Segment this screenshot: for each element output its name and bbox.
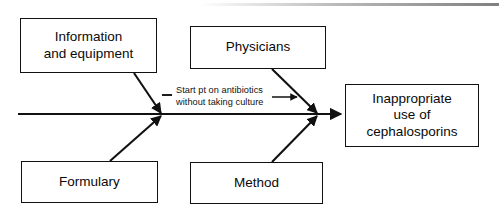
cause-box-physicians-label: Physicians [226, 39, 291, 55]
cause-box-formulary[interactable]: Formulary [21, 161, 158, 203]
effect-box[interactable]: Inappropriate use of cephalosporins [345, 84, 479, 147]
bone-method [272, 116, 317, 162]
bone-formulary [110, 116, 161, 161]
cause-box-formulary-label: Formulary [59, 174, 120, 190]
bone-physicians [272, 69, 317, 113]
cause-box-information-and-equipment-label: Information and equipment [44, 29, 133, 62]
fishbone-diagram-canvas: Information and equipment Physicians For… [0, 0, 499, 214]
cause-box-method[interactable]: Method [190, 162, 323, 204]
annotation-start-pt-on-antibiotics: Start pt on antibiotics without taking c… [176, 85, 263, 109]
bone-information-and-equipment [134, 73, 161, 113]
effect-box-label: Inappropriate use of cephalosporins [367, 91, 458, 140]
cause-box-method-label: Method [234, 175, 279, 191]
cause-box-information-and-equipment[interactable]: Information and equipment [20, 18, 157, 73]
cause-box-physicians[interactable]: Physicians [190, 26, 326, 69]
